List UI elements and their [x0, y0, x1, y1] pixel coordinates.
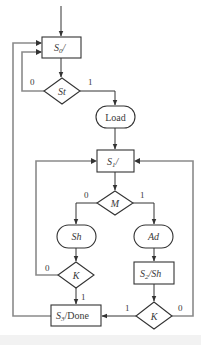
- branch-label-k-left-1: 1: [81, 292, 86, 302]
- decision-m: M: [97, 191, 133, 215]
- decision-k-left-label: K: [72, 270, 81, 281]
- output-sh-label: Sh: [72, 231, 82, 242]
- decision-k-left: K: [58, 262, 94, 288]
- branch-label-k-left-0: 0: [45, 263, 50, 273]
- edge-kleft0-s1: [36, 161, 95, 275]
- decision-st: St: [44, 78, 80, 104]
- arrowhead-icon: [36, 40, 42, 46]
- edge-st1-load: [80, 91, 115, 105]
- branch-label-k-right-0: 0: [178, 303, 183, 313]
- output-load-label: Load: [105, 112, 126, 123]
- arrowhead-icon: [134, 158, 140, 164]
- output-load: Load: [96, 106, 135, 128]
- branch-label-k-right-1: 1: [125, 303, 130, 313]
- branch-label-st-0: 0: [30, 77, 35, 87]
- decision-k-right: K: [136, 302, 172, 329]
- output-ad: Ad: [134, 225, 173, 248]
- decision-st-label: St: [58, 86, 66, 97]
- output-ad-label: Ad: [147, 231, 160, 242]
- state-s2: S2/Sh: [134, 262, 174, 284]
- background-band: [0, 335, 201, 345]
- edge-m1-ad: [133, 203, 154, 224]
- edge-m0-sh: [76, 203, 97, 224]
- state-s3: S3/Done: [51, 305, 101, 326]
- asm-chart: S0/ St Load S1/ M Sh Ad: [0, 0, 201, 345]
- branch-label-st-1: 1: [88, 77, 93, 87]
- state-s1: S1/: [97, 150, 134, 172]
- branch-label-m-1: 1: [140, 190, 145, 200]
- branch-label-m-0: 0: [84, 190, 89, 200]
- decision-k-right-label: K: [150, 311, 159, 322]
- output-sh: Sh: [57, 225, 96, 248]
- arrowhead-icon: [91, 158, 97, 164]
- decision-m-label: M: [110, 198, 120, 209]
- asm-chart-canvas: S0/ St Load S1/ M Sh Ad: [0, 0, 201, 345]
- arrowhead-icon: [36, 49, 42, 55]
- state-s0: S0/: [42, 37, 81, 58]
